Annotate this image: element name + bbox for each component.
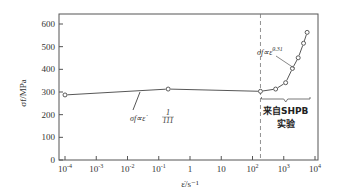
data-point: [63, 93, 67, 97]
x-tick-label: 1: [188, 164, 193, 174]
y-tick-label: 500: [42, 42, 56, 52]
y-tick-label: 200: [42, 110, 56, 120]
x-tick-label: 10-4: [58, 163, 72, 174]
annotation-high-rate: σf∝ε̇0.31: [257, 46, 283, 57]
x-tick-label: 104: [309, 163, 321, 174]
data-point: [258, 89, 262, 93]
x-tick-label: 10: [217, 164, 227, 174]
x-tick-label: 102: [247, 163, 259, 174]
x-tick-label: 103: [278, 163, 290, 174]
data-point: [302, 41, 306, 45]
data-point: [296, 56, 300, 60]
data-point: [305, 30, 309, 34]
y-axis-label: σf/MPa: [18, 79, 28, 106]
series-line: [67, 35, 306, 95]
y-tick-label: 0: [51, 155, 56, 165]
chart: 010020030040050060010-410-310-210-111010…: [0, 0, 342, 194]
data-point: [166, 87, 170, 91]
annotation-leader-low: [133, 92, 140, 110]
y-tick-label: 100: [42, 132, 56, 142]
x-tick-label: 10-3: [89, 163, 103, 174]
data-point: [284, 81, 288, 85]
y-tick-label: 400: [42, 64, 56, 74]
annotation-low-exponent-den: 111: [163, 116, 174, 125]
y-tick-label: 600: [42, 19, 56, 29]
annotation-low-rate: σf∝ε̇: [130, 114, 148, 123]
x-tick-label: 10-1: [152, 163, 166, 174]
y-tick-label: 300: [42, 87, 56, 97]
shpb-label-line1: 来自SHPB: [262, 105, 309, 116]
annotation-leader-high: [276, 56, 294, 68]
x-axis-label: ε̇/s⁻¹: [181, 179, 199, 189]
x-tick-label: 10-2: [121, 163, 135, 174]
data-point: [274, 87, 278, 91]
shpb-label-line2: 实验: [277, 118, 296, 129]
shpb-brace: [261, 97, 310, 102]
